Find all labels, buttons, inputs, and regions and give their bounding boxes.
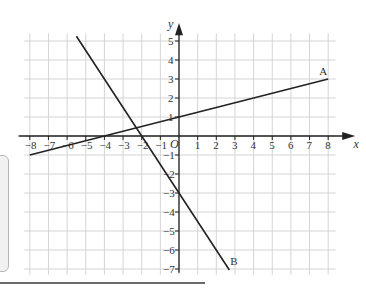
- x-tick-label: 3: [232, 139, 238, 151]
- x-tick-label: 7: [307, 139, 313, 151]
- y-tick-label: 3: [168, 73, 174, 85]
- line-b-label: B: [230, 255, 237, 267]
- y-tick-label: −4: [163, 206, 175, 218]
- y-tick-label: 4: [168, 54, 174, 66]
- y-tick-label: 5: [168, 35, 174, 47]
- coordinate-graph: −8−7−6−5−4−3−2−11234567854321−1−2−3−4−5−…: [0, 0, 366, 289]
- y-tick-label: 2: [168, 92, 174, 104]
- x-tick-label: −4: [99, 139, 111, 151]
- y-tick-label: −6: [163, 244, 175, 256]
- x-tick-label: 8: [325, 139, 331, 151]
- x-tick-label: 5: [269, 139, 275, 151]
- line-b: [76, 36, 229, 270]
- y-tick-label: 1: [168, 111, 174, 123]
- x-tick-label: 6: [288, 139, 294, 151]
- x-tick-label: −8: [25, 139, 37, 151]
- y-axis-label: y: [167, 17, 174, 31]
- line-a-label: A: [319, 65, 327, 77]
- y-axis-arrow-icon: [175, 23, 183, 35]
- origin-label: O: [170, 137, 179, 151]
- x-tick-label: 1: [195, 139, 201, 151]
- x-tick-label: −3: [118, 139, 130, 151]
- x-axis-label: x: [352, 137, 359, 151]
- y-tick-label: −7: [163, 263, 175, 275]
- y-tick-label: −3: [163, 187, 175, 199]
- x-tick-label: 2: [213, 139, 219, 151]
- x-tick-label: 4: [251, 139, 257, 151]
- y-tick-label: −5: [163, 225, 175, 237]
